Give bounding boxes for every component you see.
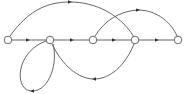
edge-n4-n2-arc (52, 44, 134, 79)
edge-n1-n4-arc (10, 2, 134, 37)
node-n5 (174, 36, 182, 44)
edge-n3-n5-arc (95, 10, 177, 36)
directed-graph-diagram (0, 0, 185, 94)
node-n2 (46, 36, 54, 44)
edge-n2-self-loop (20, 41, 54, 91)
node-n3 (89, 36, 97, 44)
node-n4 (131, 36, 139, 44)
node-n1 (4, 36, 12, 44)
